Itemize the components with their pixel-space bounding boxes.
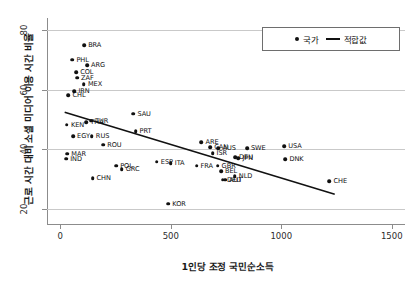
legend-label-fit: 적합값 xyxy=(344,33,367,45)
data-point xyxy=(221,178,225,182)
data-point xyxy=(216,164,220,168)
data-point-label: CHL xyxy=(72,91,85,99)
data-point xyxy=(74,71,78,75)
data-point xyxy=(208,145,212,149)
data-point-label: KOR xyxy=(172,200,186,208)
data-point xyxy=(82,82,86,86)
x-tick-mark xyxy=(171,224,172,229)
data-point xyxy=(200,141,204,145)
data-point xyxy=(169,162,173,166)
data-point-label: BRA xyxy=(88,41,101,49)
data-point-label: DNK xyxy=(289,155,303,163)
data-point-label: IND xyxy=(70,155,82,163)
data-point-label: GRC xyxy=(126,165,140,173)
data-point xyxy=(283,144,287,148)
data-point xyxy=(211,151,215,155)
scatter-chart: 근로 시간 대비 소셜 미디어 이용 시간 비율 1인당 조정 국민순소득 20… xyxy=(0,0,415,282)
data-point-label: KEN xyxy=(71,121,84,129)
data-point-label: CHE xyxy=(333,177,347,185)
data-point xyxy=(90,134,94,138)
data-point-label: ROU xyxy=(107,141,121,149)
legend-item-fit: 적합값 xyxy=(326,33,367,45)
data-point xyxy=(237,156,241,160)
data-point xyxy=(65,123,69,127)
data-point xyxy=(71,134,75,138)
data-point xyxy=(71,58,75,62)
data-point-label: ISR xyxy=(217,149,228,157)
data-point-label: PRT xyxy=(140,127,152,135)
chart-legend: 국가 적합값 xyxy=(262,27,400,51)
y-tick-label: 80 xyxy=(19,19,29,41)
x-tick-mark xyxy=(60,224,61,229)
data-point-label: EGY xyxy=(77,132,90,140)
data-point-label: CHN xyxy=(97,174,111,182)
data-point xyxy=(91,177,95,181)
y-tick-label: 60 xyxy=(19,79,29,101)
x-tick-label: 1500 xyxy=(374,231,410,241)
x-tick-label: 0 xyxy=(42,231,78,241)
data-point xyxy=(195,164,199,168)
data-point-label: USA xyxy=(288,142,302,150)
data-point-label: SWE xyxy=(251,144,266,152)
data-point-label: FRA xyxy=(201,162,213,170)
legend-item-country: 국가 xyxy=(295,33,319,45)
data-point xyxy=(67,93,71,97)
data-point xyxy=(134,129,138,133)
data-point-label: RUS xyxy=(96,132,109,140)
x-tick-label: 1000 xyxy=(263,231,299,241)
data-point-label: JPN xyxy=(242,154,253,162)
data-point xyxy=(120,167,124,171)
y-tick-label: 20 xyxy=(19,198,29,220)
data-point xyxy=(167,202,171,206)
data-point xyxy=(82,44,86,48)
x-tick-mark xyxy=(281,224,282,229)
data-point xyxy=(85,120,89,124)
data-point-label: THA xyxy=(90,118,103,126)
data-point xyxy=(284,157,288,161)
x-tick-label: 500 xyxy=(153,231,189,241)
data-point-label: MEX xyxy=(88,80,102,88)
data-point xyxy=(75,76,79,80)
x-axis-line xyxy=(47,224,405,225)
data-point-label: DEU xyxy=(227,176,241,184)
legend-line-icon xyxy=(326,38,340,40)
data-point xyxy=(155,160,159,164)
legend-label-country: 국가 xyxy=(303,33,319,45)
y-tick-label: 40 xyxy=(19,138,29,160)
legend-dot-icon xyxy=(295,37,299,41)
data-point-label: SAU xyxy=(137,110,151,118)
x-tick-mark xyxy=(392,224,393,229)
data-point xyxy=(64,157,68,161)
data-point xyxy=(219,170,223,174)
data-point xyxy=(66,152,70,156)
data-point xyxy=(114,164,118,168)
y-axis-title: 근로 시간 대비 소셜 미디어 이용 시간 비율 xyxy=(21,14,35,224)
data-point-label: ITA xyxy=(175,159,185,167)
data-point xyxy=(132,112,136,116)
x-axis-title: 1인당 조정 국민순소득 xyxy=(40,259,415,273)
data-point xyxy=(328,179,332,183)
data-point xyxy=(245,146,249,150)
data-point xyxy=(85,63,89,67)
data-point xyxy=(101,143,105,147)
